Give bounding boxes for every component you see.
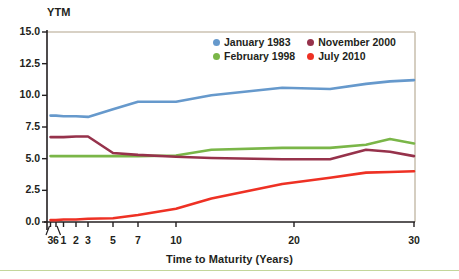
x-tick-label: 7 — [126, 234, 150, 246]
legend-label: November 2000 — [318, 36, 396, 48]
legend-label: July 2010 — [318, 50, 365, 62]
y-tick-label: 10.0 — [6, 88, 40, 100]
chart-figure: YTM Time to Maturity (Years) 0.02.55.07.… — [0, 0, 459, 279]
x-tick-label: 10 — [164, 234, 188, 246]
y-tick-label: 2.5 — [6, 183, 40, 195]
series-lines — [51, 80, 415, 220]
y-tick-label: 12.5 — [6, 57, 40, 69]
x-axis-title: Time to Maturity (Years) — [0, 253, 459, 265]
series-line — [51, 171, 415, 220]
footer-divider — [0, 270, 459, 271]
y-tick-label: 5.0 — [6, 152, 40, 164]
legend-label: February 1998 — [224, 50, 295, 62]
legend-marker-icon — [307, 53, 314, 60]
y-tick-label: 0.0 — [6, 215, 40, 227]
chart-legend: January 1983November 2000February 1998Ju… — [213, 36, 396, 62]
y-tick-label: 7.5 — [6, 120, 40, 132]
legend-item: January 1983 — [213, 36, 295, 48]
series-line — [51, 80, 415, 117]
x-tick-label: 20 — [282, 234, 306, 246]
legend-marker-icon — [213, 53, 220, 60]
legend-marker-icon — [213, 39, 220, 46]
x-tick-label: 5 — [101, 234, 125, 246]
x-tick-label: 30 — [402, 234, 426, 246]
y-axis-title: YTM — [47, 6, 71, 18]
x-tick-label: 3 — [76, 234, 100, 246]
legend-item: July 2010 — [307, 50, 396, 62]
legend-item: February 1998 — [213, 50, 295, 62]
legend-label: January 1983 — [224, 36, 291, 48]
legend-marker-icon — [307, 39, 314, 46]
y-tick-label: 15.0 — [6, 25, 40, 37]
legend-item: November 2000 — [307, 36, 396, 48]
